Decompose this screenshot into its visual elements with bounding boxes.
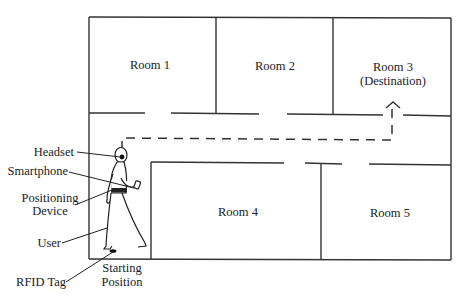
path-arrowhead-icon <box>386 102 400 108</box>
starting-position-label-line1: Starting <box>102 261 142 275</box>
room-1-label: Room 1 <box>130 58 170 72</box>
user-callout: User <box>37 236 61 250</box>
room-5-label: Room 5 <box>370 206 410 220</box>
rfid-tag-callout: RFID Tag <box>16 275 67 289</box>
smartphone-callout: Smartphone <box>8 164 69 178</box>
starting-position-label-line2: Position <box>102 275 144 289</box>
positioning-device-callout-line2: Device <box>32 204 68 218</box>
positioning-device-icon <box>110 188 127 193</box>
positioning-device-callout-line1: Positioning <box>22 191 80 205</box>
headset-callout: Headset <box>34 145 75 159</box>
floor-plan-diagram: Room 1 Room 2 Room 3 (Destination) Room … <box>0 0 466 296</box>
room-3-label: Room 3 <box>373 60 413 74</box>
room-2-label: Room 2 <box>255 59 295 73</box>
walking-user-figure <box>104 148 146 253</box>
headset-icon <box>120 155 125 160</box>
smartphone-icon <box>134 180 141 189</box>
navigation-path <box>122 102 400 150</box>
room-3-destination-label: (Destination) <box>360 74 426 88</box>
room-4-label: Room 4 <box>218 205 259 219</box>
